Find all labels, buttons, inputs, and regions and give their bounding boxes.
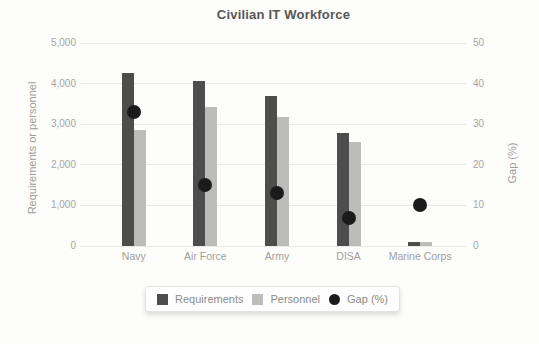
requirements-bar bbox=[122, 73, 134, 246]
chart-title: Civilian IT Workforce bbox=[0, 7, 539, 22]
gridline bbox=[80, 43, 466, 44]
gap-dot bbox=[342, 211, 356, 225]
y-right-tick-label: 0 bbox=[473, 240, 503, 252]
y-right-tick-label: 10 bbox=[473, 199, 503, 211]
y-left-tick-label: 1,000 bbox=[30, 199, 76, 211]
personnel-bar bbox=[420, 242, 432, 246]
gap-dot bbox=[413, 198, 427, 212]
y-left-tick-label: 3,000 bbox=[30, 118, 76, 130]
legend-square-swatch bbox=[252, 294, 263, 305]
personnel-bar bbox=[134, 130, 146, 246]
personnel-bar bbox=[205, 107, 217, 246]
personnel-bar bbox=[349, 142, 361, 246]
y-right-tick-label: 50 bbox=[473, 37, 503, 49]
y-left-tick-label: 4,000 bbox=[30, 78, 76, 90]
y-left-tick-label: 2,000 bbox=[30, 159, 76, 171]
requirements-bar bbox=[408, 242, 420, 246]
y-right-tick-label: 40 bbox=[473, 78, 503, 90]
category-label: Marine Corps bbox=[375, 250, 465, 262]
y-right-tick-label: 30 bbox=[473, 118, 503, 130]
y-axis-left-label: Requirements or personnel bbox=[26, 82, 38, 215]
chart-legend: RequirementsPersonnelGap (%) bbox=[145, 286, 400, 312]
legend-label: Gap (%) bbox=[347, 293, 388, 305]
legend-item: Personnel bbox=[252, 293, 320, 305]
requirements-bar bbox=[265, 96, 277, 246]
requirements-bar bbox=[337, 133, 349, 246]
y-left-tick-label: 0 bbox=[30, 240, 76, 252]
y-right-tick-label: 20 bbox=[473, 159, 503, 171]
civilian-it-workforce-chart: Civilian IT Workforce Requirements or pe… bbox=[0, 0, 539, 344]
gap-dot bbox=[127, 105, 141, 119]
legend-label: Personnel bbox=[270, 293, 320, 305]
y-axis-right-label: Gap (%) bbox=[506, 143, 518, 184]
gridline bbox=[80, 83, 466, 84]
personnel-bar bbox=[277, 117, 289, 246]
requirements-bar bbox=[193, 81, 205, 246]
legend-square-swatch bbox=[157, 294, 168, 305]
legend-circle-swatch bbox=[329, 294, 340, 305]
legend-item: Gap (%) bbox=[329, 293, 388, 305]
legend-item: Requirements bbox=[157, 293, 243, 305]
legend-label: Requirements bbox=[175, 293, 243, 305]
y-left-tick-label: 5,000 bbox=[30, 37, 76, 49]
